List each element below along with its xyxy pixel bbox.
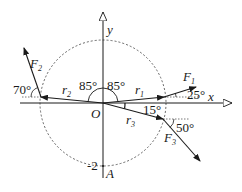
r2-label: r2 (62, 82, 71, 99)
angle-arc-f1 (175, 93, 176, 97)
angle-label-f2: 70° (13, 82, 31, 97)
origin-label: O (91, 106, 101, 121)
r1-label: r1 (135, 82, 144, 99)
point-a-value: -2 (87, 158, 98, 173)
y-axis-label: y (105, 22, 113, 37)
f3-label: F3 (163, 130, 176, 147)
point-a-dot (102, 165, 104, 167)
angle-label-r1: 85° (107, 78, 125, 93)
r2-vector (41, 97, 103, 103)
angle-label-r3: 15° (143, 102, 161, 117)
f2-label: F2 (29, 56, 42, 73)
point-a-label: A (105, 166, 114, 181)
angle-arc-f3 (170, 119, 174, 127)
f1-label: F1 (182, 69, 195, 86)
angle-label-f1: 25° (187, 87, 205, 102)
force-diagram: y x O A -2 85° 85° 15° 25° 70° 50° r1 r2… (0, 0, 242, 192)
x-axis-label: x (207, 89, 214, 104)
angle-arc-f2 (31, 88, 38, 97)
angle-label-f3: 50° (176, 120, 194, 135)
r3-label: r3 (126, 112, 135, 129)
angle-label-r2: 85° (79, 78, 97, 93)
